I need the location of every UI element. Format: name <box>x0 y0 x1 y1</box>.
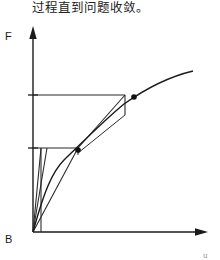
y-axis-arrowhead <box>29 26 36 39</box>
y-axis-label: F <box>5 30 12 42</box>
figure-svg <box>0 14 220 256</box>
caption-text: 过程直到问题收敛。 <box>32 0 202 15</box>
convergence-figure: F B u <box>0 14 220 256</box>
iteration-points-group <box>75 94 137 153</box>
iteration-point-2 <box>131 94 137 100</box>
drop-lines-group <box>41 95 125 232</box>
x-axis-arrowhead <box>195 228 208 235</box>
origin-label: B <box>5 233 12 245</box>
level-lines-group <box>33 95 125 148</box>
iteration-point-1 <box>75 147 81 153</box>
x-axis-label: u <box>203 250 208 260</box>
axes-group <box>29 26 208 236</box>
